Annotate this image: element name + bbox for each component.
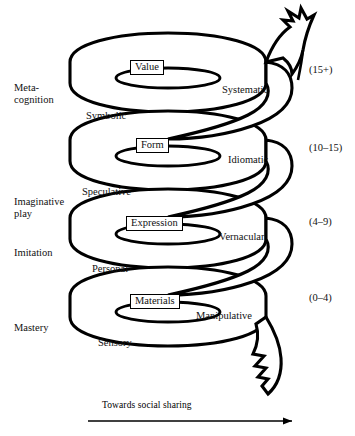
age-range-0-4: (0–4) — [309, 292, 332, 304]
stage-label-imaginative-play: Imaginative play — [14, 196, 64, 220]
boxed-mode-materials: Materials — [130, 294, 180, 309]
age-range-15-plus-text: (15+) — [309, 64, 332, 75]
spiral-turn-value — [70, 33, 266, 112]
band-label-vernacular: Vernacular — [219, 231, 264, 243]
age-range-10-15-text: (10–15) — [309, 142, 342, 153]
stage-label-metacognition: Meta- cognition — [14, 82, 54, 106]
age-range-0-4-text: (0–4) — [309, 292, 332, 303]
band-label-personal: Personal — [92, 263, 128, 275]
stage-label-imaginative-play-text: Imaginative play — [14, 196, 64, 219]
age-range-4-9-text: (4–9) — [309, 216, 332, 227]
age-range-10-15: (10–15) — [309, 142, 342, 154]
ribbon-bottom-torn-end — [253, 317, 281, 394]
stage-label-mastery: Mastery — [14, 322, 48, 334]
band-label-systematic: Systematic — [222, 84, 268, 96]
boxed-mode-form: Form — [136, 138, 169, 153]
torn-edge-bottom — [253, 317, 281, 394]
age-range-15-plus: (15+) — [309, 64, 332, 76]
band-label-speculative: Speculative — [82, 186, 131, 198]
band-label-manipulative: Manipulative — [196, 310, 252, 322]
boxed-mode-expression: Expression — [126, 216, 183, 231]
boxed-mode-value: Value — [130, 60, 164, 75]
band-label-idiomatic: Idiomatic — [228, 154, 268, 166]
band-label-sensory: Sensory — [98, 337, 132, 349]
stage-label-imitation-text: Imitation — [14, 247, 53, 258]
diagram-caption: Towards social sharing — [102, 400, 192, 410]
band-label-symbolic: Symbolic — [86, 110, 126, 122]
stage-label-metacognition-text: Meta- cognition — [14, 82, 54, 105]
stage-label-imitation: Imitation — [14, 247, 53, 259]
spiral-development-diagram: Meta- cognition Imaginative play Imitati… — [0, 0, 355, 436]
stage-label-mastery-text: Mastery — [14, 322, 48, 333]
social-sharing-arrow — [88, 418, 292, 425]
arrow-head-icon — [283, 418, 292, 425]
age-range-4-9: (4–9) — [309, 216, 332, 228]
